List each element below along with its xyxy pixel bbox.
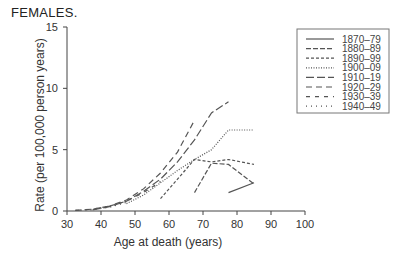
x-tick-label: 60 <box>163 218 175 230</box>
y-tick-label: 15 <box>46 21 58 33</box>
series-line-1900-09 <box>127 130 255 204</box>
plot-area <box>76 102 255 211</box>
x-tick-label: 70 <box>197 218 209 230</box>
legend-label: 1940–49 <box>342 101 381 112</box>
series-line-1870-79 <box>229 183 255 193</box>
y-tick-label: 0 <box>52 205 58 217</box>
x-tick-label: 40 <box>95 218 107 230</box>
series-line-1910-19 <box>93 102 229 210</box>
y-axis-title: Rate (per 100,000 person years) <box>33 38 47 211</box>
x-tick-label: 90 <box>265 218 277 230</box>
y-tick-label: 5 <box>52 144 58 156</box>
x-tick-label: 50 <box>129 218 141 230</box>
x-tick-label: 30 <box>61 218 73 230</box>
legend: 1870–791880–891890–991900–091910–191920–… <box>297 29 389 113</box>
x-tick-label: 100 <box>296 218 314 230</box>
series-line-1880-89 <box>195 163 255 192</box>
axes: 05101530405060708090100Age at death (yea… <box>33 21 314 249</box>
y-tick-label: 10 <box>46 82 58 94</box>
series-line-1930-39 <box>76 182 161 211</box>
x-tick-label: 80 <box>231 218 243 230</box>
line-chart: 05101530405060708090100Age at death (yea… <box>0 0 395 256</box>
x-axis-title: Age at death (years) <box>114 235 223 249</box>
